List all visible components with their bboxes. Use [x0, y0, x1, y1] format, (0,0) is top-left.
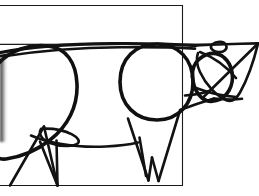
rear-haunch-oval [0, 46, 77, 159]
front-leg-inner-notch-right [152, 158, 159, 182]
chin-line [214, 99, 242, 100]
rear-leg-second-leg [57, 141, 58, 186]
frame-rectangle [0, 6, 183, 186]
front-leg-front-edge [159, 112, 180, 181]
cow-line-drawing [0, 0, 259, 196]
drawing-canvas [0, 0, 259, 196]
front-leg-inner-notch-left [149, 158, 153, 181]
front-leg-group [128, 112, 180, 181]
